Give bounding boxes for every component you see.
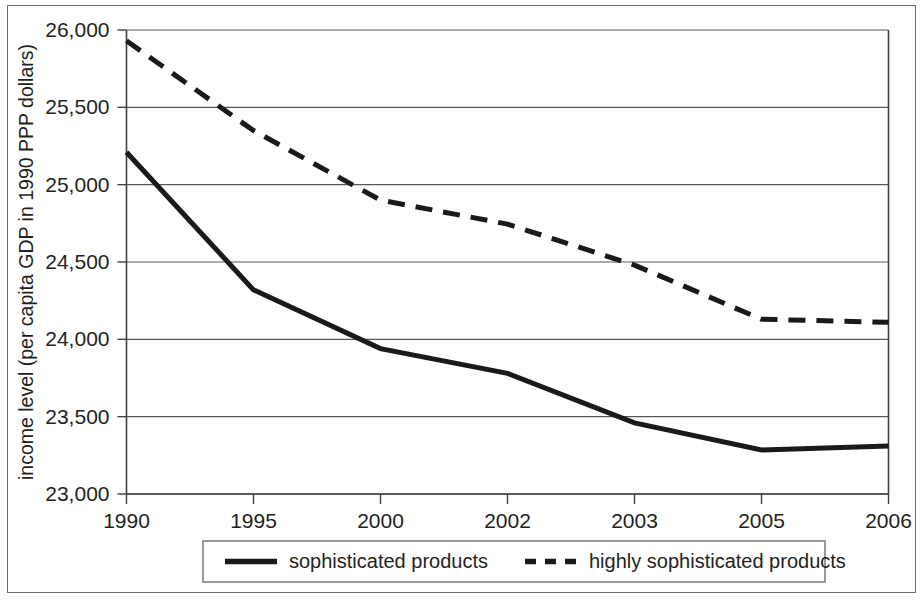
chart-figure: 23,00023,50024,00024,50025,00025,50026,0… — [0, 0, 923, 601]
y-axis-title: income level (per capita GDP in 1990 PPP… — [15, 44, 37, 480]
y-tick-label: 24,000 — [45, 327, 109, 350]
x-tick-label: 2002 — [484, 509, 531, 532]
legend-label: highly sophisticated products — [589, 550, 846, 572]
y-tick-label: 23,500 — [45, 405, 109, 428]
y-tick-label: 25,500 — [45, 95, 109, 118]
y-axis-tick-labels: 23,00023,50024,00024,50025,00025,50026,0… — [45, 18, 109, 505]
line-chart: 23,00023,50024,00024,50025,00025,50026,0… — [0, 0, 923, 601]
x-axis-ticks — [127, 494, 889, 504]
y-tick-label: 24,500 — [45, 250, 109, 273]
chart-legend: sophisticated productshighly sophisticat… — [203, 541, 846, 582]
x-tick-label: 1990 — [103, 509, 150, 532]
x-tick-label: 2003 — [611, 509, 658, 532]
x-tick-label: 1995 — [230, 509, 277, 532]
y-tick-label: 23,000 — [45, 482, 109, 505]
x-tick-label: 2006 — [865, 509, 912, 532]
y-tick-label: 26,000 — [45, 18, 109, 41]
gridlines — [127, 30, 889, 494]
y-axis-ticks — [118, 30, 127, 494]
x-axis-tick-labels: 1990199520002002200320052006 — [103, 509, 912, 532]
series-line — [127, 41, 889, 322]
x-tick-label: 2005 — [738, 509, 785, 532]
series-line — [127, 152, 889, 450]
y-tick-label: 25,000 — [45, 173, 109, 196]
series-layer — [127, 41, 889, 450]
legend-label: sophisticated products — [289, 550, 488, 572]
x-tick-label: 2000 — [357, 509, 404, 532]
